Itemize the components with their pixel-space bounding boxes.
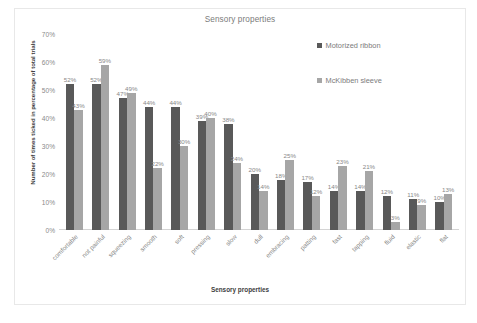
x-axis-tick: patting [299, 231, 325, 283]
x-axis-tick-label: elastic [405, 233, 423, 251]
bar-slot: 49% [127, 34, 136, 230]
legend-item[interactable]: McKibben sleeve [317, 76, 447, 85]
bar[interactable] [145, 107, 154, 230]
x-axis-tick: fast [325, 231, 351, 283]
bar-value-label: 59% [99, 57, 111, 64]
bar[interactable] [74, 110, 83, 230]
y-axis-tick: 70% [29, 31, 55, 38]
bar[interactable] [119, 98, 128, 230]
bar-slot: 47% [119, 34, 128, 230]
bar[interactable] [330, 191, 339, 230]
x-axis-tick: fluid [378, 231, 404, 283]
bar-slot: 22% [153, 34, 162, 230]
x-axis-title: Sensory properties [15, 286, 465, 293]
bar-slot: 20% [251, 34, 260, 230]
bar-slot: 59% [101, 34, 110, 230]
bar[interactable] [312, 196, 321, 230]
bar[interactable] [338, 166, 347, 230]
bar-value-label: 21% [363, 163, 375, 170]
bar[interactable] [127, 93, 136, 230]
bar-slot: 17% [303, 34, 312, 230]
x-axis-tick: pressing [193, 231, 219, 283]
y-axis-tick: 30% [29, 143, 55, 150]
bar[interactable] [101, 65, 110, 230]
bar[interactable] [259, 191, 268, 230]
x-axis-tick: slow [219, 231, 245, 283]
chart-legend: Motorized ribbonMcKibben sleeve [317, 41, 447, 111]
bar[interactable] [356, 191, 365, 230]
bar-slot: 44% [171, 34, 180, 230]
legend-item[interactable]: Motorized ribbon [317, 41, 447, 50]
bar[interactable] [224, 124, 233, 230]
bar-slot: 14% [259, 34, 268, 230]
bar-group: 38%24% [219, 34, 245, 230]
bar[interactable] [391, 222, 400, 230]
bar[interactable] [171, 107, 180, 230]
bar-slot: 44% [145, 34, 154, 230]
x-axis-tick-label: smooth [139, 233, 159, 253]
y-axis-tick: 60% [29, 59, 55, 66]
bar-group: 20%14% [246, 34, 272, 230]
bar-group: 52%59% [87, 34, 113, 230]
y-axis-tick: 40% [29, 115, 55, 122]
x-axis-tick: smooth [140, 231, 166, 283]
bar[interactable] [153, 168, 162, 230]
x-axis-tick-label: fluid [383, 233, 396, 246]
bar-group: 18%25% [272, 34, 298, 230]
bar-value-label: 23% [336, 158, 348, 165]
x-axis-tick-label: fast [331, 233, 343, 245]
bar-value-label: 40% [204, 110, 216, 117]
bar[interactable] [383, 196, 392, 230]
bar[interactable] [409, 199, 418, 230]
bar-group: 39%40% [193, 34, 219, 230]
y-axis-tick: 20% [29, 171, 55, 178]
bar-slot: 30% [180, 34, 189, 230]
bar[interactable] [198, 121, 207, 230]
bar-value-label: 43% [72, 102, 84, 109]
bar[interactable] [277, 180, 286, 230]
x-axis-tick-label: pressing [189, 233, 211, 255]
bar-slot: 38% [224, 34, 233, 230]
bar-slot: 25% [285, 34, 294, 230]
bar-slot: 40% [206, 34, 215, 230]
x-axis-tick-label: slow [224, 233, 238, 247]
bar[interactable] [365, 171, 374, 230]
bar[interactable] [233, 163, 242, 230]
bar-value-label: 9% [417, 197, 426, 204]
x-axis-tick-labels: comfortablenot painfulsqueezingsmoothsof… [59, 231, 459, 283]
bar-slot: 43% [74, 34, 83, 230]
bar[interactable] [435, 202, 444, 230]
x-axis-tick-label: soft [173, 233, 185, 245]
x-axis-tick: soft [167, 231, 193, 283]
bar-group: 44%22% [140, 34, 166, 230]
bar-slot: 18% [277, 34, 286, 230]
legend-label: McKibben sleeve [326, 76, 382, 85]
x-axis-tick: squeezing [114, 231, 140, 283]
bar-slot: 52% [66, 34, 75, 230]
bar[interactable] [417, 205, 426, 230]
x-axis-tick: tapping [351, 231, 377, 283]
y-axis-ticks: 70%60%50%40%30%20%10%0% [29, 34, 55, 230]
x-axis-tick-label: tapping [350, 233, 370, 253]
bar[interactable] [285, 160, 294, 230]
bar-value-label: 24% [231, 155, 243, 162]
bar[interactable] [92, 84, 101, 230]
x-axis-tick-label: dull [252, 233, 264, 245]
bar-value-label: 25% [284, 152, 296, 159]
bar-group: 47%49% [114, 34, 140, 230]
bar-group: 44%30% [167, 34, 193, 230]
bar[interactable] [206, 118, 215, 230]
bar[interactable] [444, 194, 453, 230]
bar-value-label: 12% [310, 188, 322, 195]
bar-value-label: 30% [178, 138, 190, 145]
x-axis-tick-label: comfortable [51, 233, 80, 262]
bar-value-label: 13% [442, 186, 454, 193]
y-axis-tick: 10% [29, 199, 55, 206]
y-axis-tick: 0% [29, 227, 55, 234]
legend-swatch-icon [317, 43, 322, 48]
x-axis-tick: elastic [404, 231, 430, 283]
x-axis-tick-label: patting [298, 233, 317, 252]
bar[interactable] [180, 146, 189, 230]
bar-slot: 39% [198, 34, 207, 230]
y-axis-tick: 50% [29, 87, 55, 94]
